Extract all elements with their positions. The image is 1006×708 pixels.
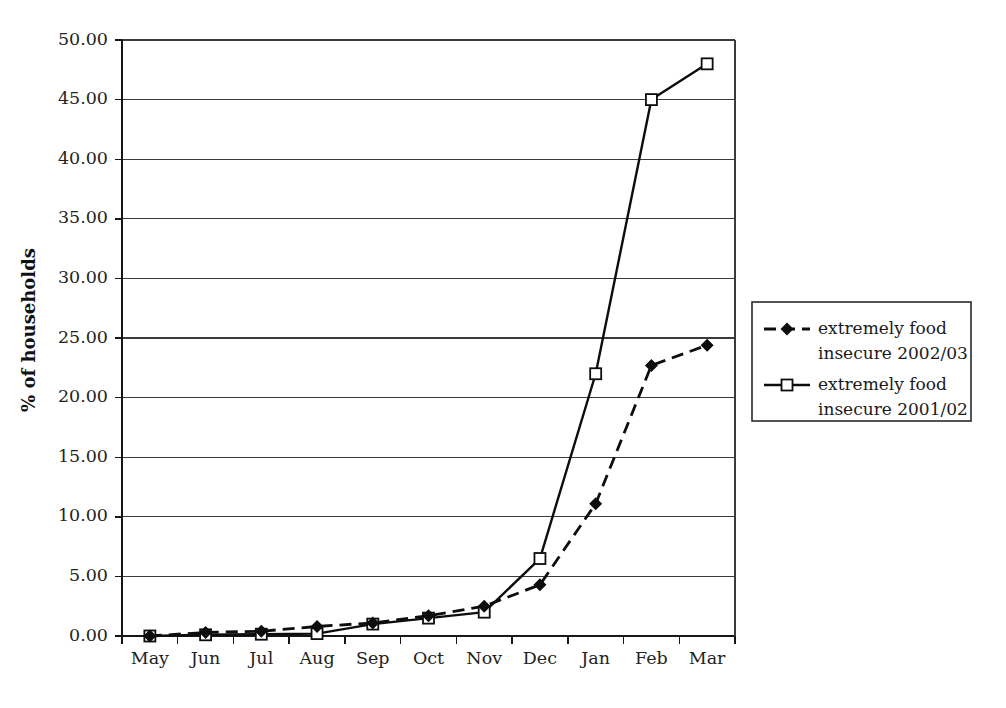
legend-label-line1: extremely food bbox=[818, 374, 947, 394]
x-tick-label: Jul bbox=[247, 648, 273, 668]
marker-open-square bbox=[534, 553, 545, 564]
y-tick-label: 10.00 bbox=[58, 505, 108, 525]
y-tick-label: 5.00 bbox=[69, 565, 108, 585]
chart-figure: 0.005.0010.0015.0020.0025.0030.0035.0040… bbox=[0, 0, 1006, 708]
y-tick-label: 20.00 bbox=[58, 386, 108, 406]
x-tick-label: Sep bbox=[356, 648, 390, 668]
marker-open-square bbox=[646, 94, 657, 105]
y-tick-label: 40.00 bbox=[58, 148, 108, 168]
x-tick-label: Mar bbox=[689, 648, 726, 668]
x-tick-label: Oct bbox=[413, 648, 444, 668]
x-tick-label: May bbox=[131, 648, 169, 668]
gridlines-group bbox=[122, 40, 735, 576]
y-tick-label: 25.00 bbox=[58, 327, 108, 347]
x-tick-label: Jan bbox=[579, 648, 610, 668]
data-series-group bbox=[144, 58, 712, 641]
y-tick-label: 0.00 bbox=[69, 625, 108, 645]
x-tick-marks-group bbox=[122, 636, 735, 644]
y-tick-label: 30.00 bbox=[58, 267, 108, 287]
series-line bbox=[150, 64, 707, 636]
x-tick-label: Aug bbox=[298, 648, 334, 668]
legend-label-line1: extremely food bbox=[818, 318, 947, 338]
y-axis-title: % of households bbox=[18, 248, 39, 412]
y-tick-label: 45.00 bbox=[58, 88, 108, 108]
y-tick-label: 15.00 bbox=[58, 446, 108, 466]
marker-filled-diamond bbox=[646, 360, 657, 371]
chart-legend: extremely foodinsecure 2002/03extremely … bbox=[752, 302, 971, 421]
legend-label-line2: insecure 2001/02 bbox=[818, 399, 968, 419]
y-tick-marks-group bbox=[115, 40, 122, 636]
marker-open-square bbox=[702, 58, 713, 69]
marker-open-square bbox=[782, 380, 793, 391]
y-tick-labels-group: 0.005.0010.0015.0020.0025.0030.0035.0040… bbox=[58, 29, 108, 645]
x-tick-label: Nov bbox=[466, 648, 502, 668]
legend-label-line2: insecure 2002/03 bbox=[818, 343, 968, 363]
x-tick-labels-group: MayJunJulAugSepOctNovDecJanFebMar bbox=[131, 648, 726, 668]
y-tick-label: 35.00 bbox=[58, 207, 108, 227]
marker-open-square bbox=[590, 368, 601, 379]
x-tick-label: Feb bbox=[635, 648, 668, 668]
marker-filled-diamond bbox=[702, 340, 713, 351]
marker-filled-diamond bbox=[590, 498, 601, 509]
x-tick-label: Jun bbox=[189, 648, 221, 668]
series-line bbox=[150, 345, 707, 636]
line-chart: 0.005.0010.0015.0020.0025.0030.0035.0040… bbox=[0, 0, 1006, 708]
x-tick-label: Dec bbox=[523, 648, 557, 668]
y-tick-label: 50.00 bbox=[58, 29, 108, 49]
